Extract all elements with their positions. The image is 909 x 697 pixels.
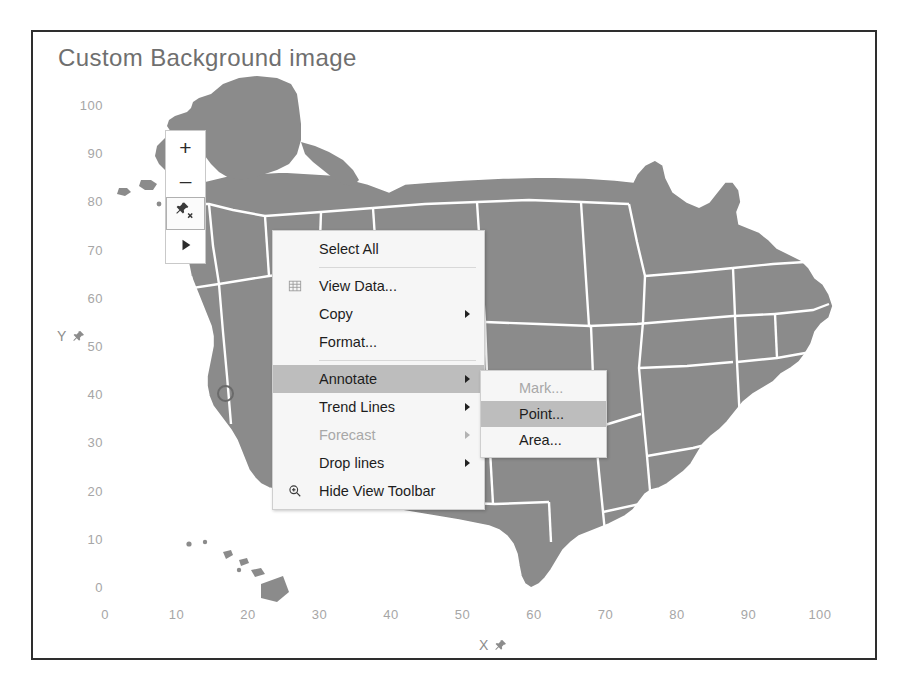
unpin-button[interactable] bbox=[166, 197, 205, 230]
chevron-right-icon bbox=[465, 431, 470, 439]
zoom-in-button[interactable]: + bbox=[166, 131, 205, 164]
submenu-item-point[interactable]: Point... bbox=[481, 401, 606, 427]
pin-x-icon bbox=[175, 201, 196, 226]
menu-item-label: Hide View Toolbar bbox=[319, 483, 435, 499]
menu-item-forecast: Forecast bbox=[273, 421, 484, 449]
x-tick-label: 0 bbox=[88, 607, 122, 622]
map-hawaii bbox=[186, 540, 289, 602]
menu-separator bbox=[319, 360, 476, 361]
menu-item-annotate[interactable]: Annotate bbox=[273, 365, 484, 393]
x-tick-label: 60 bbox=[517, 607, 551, 622]
submenu-item-label: Area... bbox=[519, 432, 562, 448]
y-tick-label: 40 bbox=[69, 387, 103, 402]
chevron-right-icon bbox=[465, 310, 470, 318]
x-tick-label: 20 bbox=[231, 607, 265, 622]
y-tick-label: 70 bbox=[69, 243, 103, 258]
menu-item-label: Annotate bbox=[319, 371, 377, 387]
x-tick-label: 80 bbox=[660, 607, 694, 622]
submenu-item-label: Mark... bbox=[519, 380, 563, 396]
zoom-out-button[interactable]: – bbox=[166, 164, 205, 197]
y-tick-label: 30 bbox=[69, 435, 103, 450]
chevron-right-icon bbox=[465, 459, 470, 467]
x-axis-title: X bbox=[479, 637, 507, 653]
menu-item-label: View Data... bbox=[319, 278, 397, 294]
circle-mark[interactable] bbox=[217, 385, 234, 402]
menu-item-label: Copy bbox=[319, 306, 353, 322]
y-tick-label: 20 bbox=[69, 484, 103, 499]
x-tick-label: 70 bbox=[589, 607, 623, 622]
y-tick-label: 0 bbox=[69, 580, 103, 595]
menu-item-label: Format... bbox=[319, 334, 377, 350]
x-axis-title-label: X bbox=[479, 637, 488, 653]
magnifier-icon bbox=[287, 483, 303, 499]
x-tick-label: 30 bbox=[303, 607, 337, 622]
y-tick-label: 100 bbox=[69, 98, 103, 113]
menu-item-label: Select All bbox=[319, 241, 379, 257]
submenu-item-mark: Mark... bbox=[481, 375, 606, 401]
y-tick-label: 90 bbox=[69, 146, 103, 161]
pin-icon bbox=[494, 639, 507, 652]
submenu-item-area[interactable]: Area... bbox=[481, 427, 606, 453]
menu-separator bbox=[319, 267, 476, 268]
pin-icon bbox=[72, 330, 85, 343]
map-alaska bbox=[117, 76, 359, 196]
menu-item-label: Trend Lines bbox=[319, 399, 395, 415]
plus-icon: + bbox=[179, 137, 191, 158]
visualization-frame: Custom Background image 1009080706050403… bbox=[31, 30, 877, 660]
chevron-right-icon bbox=[465, 375, 470, 383]
menu-item-label: Forecast bbox=[319, 427, 375, 443]
submenu-item-label: Point... bbox=[519, 406, 564, 422]
y-axis-title-label: Y bbox=[57, 328, 66, 344]
chevron-right-icon bbox=[465, 403, 470, 411]
menu-item-label: Drop lines bbox=[319, 455, 384, 471]
menu-item-format[interactable]: Format... bbox=[273, 328, 484, 356]
x-tick-label: 50 bbox=[446, 607, 480, 622]
x-tick-label: 40 bbox=[374, 607, 408, 622]
pan-button[interactable] bbox=[166, 230, 205, 263]
menu-item-trend-lines[interactable]: Trend Lines bbox=[273, 393, 484, 421]
y-tick-label: 10 bbox=[69, 532, 103, 547]
y-tick-label: 60 bbox=[69, 291, 103, 306]
table-grid-icon bbox=[287, 278, 303, 294]
menu-item-select-all[interactable]: Select All bbox=[273, 235, 484, 263]
menu-item-drop-lines[interactable]: Drop lines bbox=[273, 449, 484, 477]
menu-item-hide-view-toolbar[interactable]: Hide View Toolbar bbox=[273, 477, 484, 505]
x-tick-label: 90 bbox=[732, 607, 766, 622]
y-axis-title: Y bbox=[57, 328, 85, 344]
x-tick-label: 10 bbox=[160, 607, 194, 622]
context-menu[interactable]: Select AllView Data...CopyFormat...Annot… bbox=[272, 230, 485, 510]
page-title: Custom Background image bbox=[58, 44, 357, 72]
minus-icon: – bbox=[180, 170, 192, 191]
view-toolbar[interactable]: + – bbox=[165, 130, 206, 264]
y-tick-label: 80 bbox=[69, 194, 103, 209]
x-tick-label: 100 bbox=[803, 607, 837, 622]
play-arrow-icon bbox=[179, 238, 193, 256]
annotate-submenu[interactable]: Mark...Point...Area... bbox=[480, 370, 607, 458]
menu-item-copy[interactable]: Copy bbox=[273, 300, 484, 328]
menu-item-view-data[interactable]: View Data... bbox=[273, 272, 484, 300]
